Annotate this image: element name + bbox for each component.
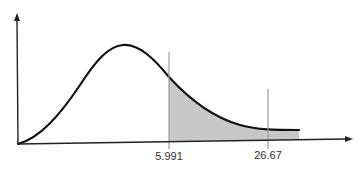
y-axis: [17, 20, 18, 144]
x-axis-arrow-icon: [345, 136, 353, 142]
shaded-tail-region: [169, 77, 299, 141]
chart: 5.991 26.67: [0, 0, 364, 170]
test-statistic-label: 26.67: [254, 149, 282, 161]
density-curve: [18, 45, 299, 144]
critical-value-label: 5.991: [155, 150, 183, 162]
y-axis-arrow-icon: [14, 13, 20, 21]
